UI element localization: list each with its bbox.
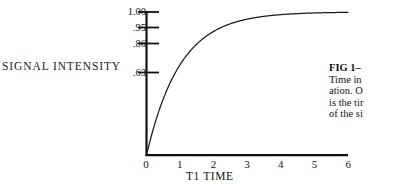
y-tick-label-3: .86	[110, 39, 146, 50]
caption-heading: FIG 1–	[329, 62, 395, 74]
x-tick-label-2: 2	[206, 159, 220, 170]
x-tick-label-5: 5	[308, 159, 322, 170]
x-tick-label-3: 3	[240, 159, 254, 170]
x-tick-label-6: 6	[341, 159, 355, 170]
figure-root: SIGNAL INTENSITY 1.00 .95 .86 .63 0 1 2 …	[0, 0, 395, 186]
data-curve	[147, 12, 349, 155]
caption-line-2: ation. O	[329, 85, 395, 97]
caption-line-1: Time in	[329, 74, 395, 86]
caption-line-4: of the si	[329, 108, 395, 120]
figure-caption: FIG 1– Time in ation. O is the tir of th…	[329, 62, 395, 120]
y-tick-label-4: .63	[110, 68, 146, 79]
x-tick-label-0: 0	[139, 159, 153, 170]
caption-line-3: is the tir	[329, 97, 395, 109]
x-axis-title: T1 TIME	[186, 170, 316, 182]
x-tick-label-1: 1	[173, 159, 187, 170]
y-tick-label-2: .95	[110, 23, 146, 34]
y-tick-label-1: 1.00	[110, 7, 146, 18]
x-tick-label-4: 4	[274, 159, 288, 170]
